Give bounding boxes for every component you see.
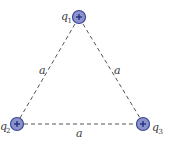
charge-q3: q 3 <box>137 118 163 137</box>
side-bottom-label: a <box>76 127 83 140</box>
charge-q3-subscript: 3 <box>159 128 163 136</box>
side-left-label: a <box>39 64 46 77</box>
charge-q1-subscript: 1 <box>68 17 72 25</box>
charge-q1: q 1 <box>61 10 86 25</box>
charge-q2-subscript: 2 <box>6 127 10 135</box>
charge-q2: q 2 <box>0 118 24 136</box>
side-right-line <box>83 24 140 118</box>
side-left-line <box>20 24 75 118</box>
side-right-label: a <box>114 64 121 77</box>
triangle-diagram: a a a q 1 q 2 q 3 <box>0 0 169 146</box>
